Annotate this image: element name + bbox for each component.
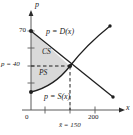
supply-curve-label: p = S(x): [44, 93, 70, 101]
demand-endpoint-marker: [111, 95, 114, 98]
producer-surplus-label: PS: [39, 69, 47, 77]
equilibrium-point: [68, 64, 72, 68]
x-axis-label: x: [126, 104, 130, 112]
surplus-chart-figure: p x 70 p = 40 200 x̄ = 150 0 p = D(x) p …: [0, 0, 133, 135]
origin-label: 0: [25, 114, 29, 121]
producer-surplus-region: [31, 66, 70, 92]
y-axis-label: p: [35, 1, 39, 9]
supply-intercept-marker: [29, 90, 33, 94]
demand-intercept-marker: [29, 29, 33, 33]
supply-endpoint-marker: [108, 24, 111, 27]
y-tick-label-70: 70: [19, 27, 26, 34]
consumer-surplus-label: CS: [42, 48, 51, 56]
equilibrium-quantity-label: x̄ = 150: [59, 122, 81, 129]
price-level-label: p = 40: [1, 61, 20, 68]
x-axis-arrow: [119, 108, 125, 113]
x-tick-label-200: 200: [88, 114, 99, 121]
demand-curve-label: p = D(x): [46, 28, 74, 36]
y-axis-arrow: [29, 10, 34, 16]
